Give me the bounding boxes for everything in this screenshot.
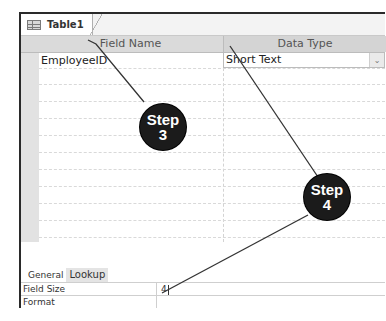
row-selector-column[interactable] <box>21 53 39 242</box>
table-row[interactable] <box>39 120 385 136</box>
step-word: Step <box>311 182 344 197</box>
field-size-value: 4 <box>161 284 167 294</box>
table-row[interactable] <box>39 222 385 238</box>
field-properties-pane: General Lookup Field Size 4 Format <box>21 242 385 308</box>
grid-header: Field Name Data Type <box>21 36 385 53</box>
property-label: Format <box>23 296 157 308</box>
property-row-field-size[interactable]: Field Size 4 <box>21 282 385 295</box>
tab-lookup[interactable]: Lookup <box>66 268 108 282</box>
step-number: 3 <box>159 127 167 142</box>
step-3-callout: Step 3 <box>140 104 186 150</box>
data-type-select[interactable]: Short Text ⌄ <box>223 52 385 68</box>
document-tab-bar: Table1 <box>21 14 385 36</box>
step-4-callout: Step 4 <box>304 174 350 220</box>
table-row[interactable] <box>39 103 385 119</box>
table-icon <box>27 20 41 30</box>
text-cursor <box>168 285 169 295</box>
table-row[interactable] <box>39 86 385 102</box>
table-row[interactable] <box>39 69 385 85</box>
tab-table1[interactable]: Table1 <box>21 14 93 35</box>
table-row[interactable] <box>39 154 385 170</box>
property-label: Field Size <box>23 283 157 295</box>
step-word: Step <box>147 112 180 127</box>
header-data-type: Data Type <box>223 36 386 52</box>
property-row-format[interactable]: Format <box>21 295 385 308</box>
table-row[interactable] <box>39 137 385 153</box>
step-number: 4 <box>323 197 331 212</box>
field-name-cell[interactable]: EmployeeID <box>41 53 107 68</box>
chevron-down-icon[interactable]: ⌄ <box>369 53 384 67</box>
tab-label: Table1 <box>47 19 84 30</box>
header-field-name: Field Name <box>39 36 222 52</box>
table-design-window: Table1 Field Name Data Type EmployeeID S… <box>19 12 385 308</box>
field-size-input[interactable]: 4 <box>161 283 169 295</box>
tab-general[interactable]: General <box>25 268 66 282</box>
table-row[interactable]: EmployeeID Short Text ⌄ <box>39 53 385 69</box>
data-type-value: Short Text <box>226 53 281 67</box>
properties-tabs: General Lookup <box>25 268 108 282</box>
